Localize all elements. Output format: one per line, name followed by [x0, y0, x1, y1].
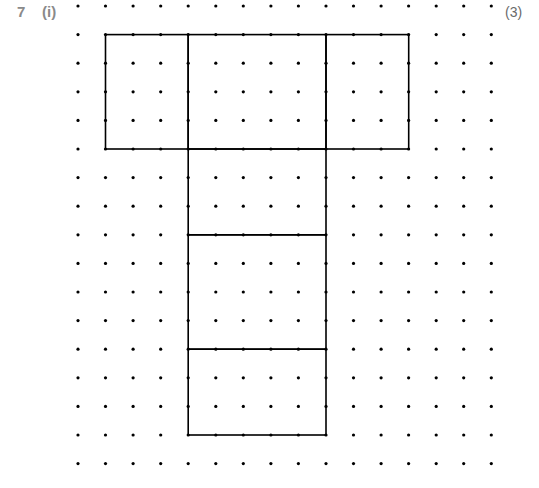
grid-dot: [490, 33, 493, 36]
grid-dot: [435, 433, 438, 436]
grid-dot: [132, 4, 135, 7]
grid-dot: [352, 405, 355, 408]
grid-dot: [159, 462, 162, 465]
grid-dot: [269, 433, 272, 436]
grid-dot: [76, 33, 79, 36]
grid-dot: [297, 405, 300, 408]
grid-dot: [490, 119, 493, 122]
grid-dot: [435, 376, 438, 379]
grid-dot: [324, 262, 327, 265]
grid-dot: [159, 33, 162, 36]
grid-dot: [214, 33, 217, 36]
grid-dot: [490, 376, 493, 379]
grid-dot: [490, 262, 493, 265]
grid-dot: [324, 319, 327, 322]
top-middle-face: [188, 35, 326, 149]
grid-dot: [214, 290, 217, 293]
grid-dot: [132, 147, 135, 150]
grid-dot: [187, 462, 190, 465]
grid-dot: [269, 462, 272, 465]
grid-dot: [187, 147, 190, 150]
grid-dot: [132, 262, 135, 265]
grid-dot: [132, 319, 135, 322]
grid-dot: [104, 176, 107, 179]
grid-dot: [380, 33, 383, 36]
grid-dot: [490, 348, 493, 351]
grid-dot: [132, 176, 135, 179]
grid-dot: [435, 462, 438, 465]
grid-dot: [132, 462, 135, 465]
grid-dot: [462, 348, 465, 351]
grid-dot: [490, 205, 493, 208]
grid-dot: [187, 405, 190, 408]
grid-dot: [269, 205, 272, 208]
grid-dot: [76, 62, 79, 65]
grid-dot: [352, 33, 355, 36]
grid-dot: [407, 462, 410, 465]
grid-dot: [407, 4, 410, 7]
grid-dot: [380, 405, 383, 408]
stem-face-1: [188, 149, 326, 235]
grid-dot: [242, 433, 245, 436]
grid-dot: [462, 205, 465, 208]
grid-dot: [214, 405, 217, 408]
grid-dot: [214, 4, 217, 7]
grid-dot: [462, 90, 465, 93]
grid-dot: [352, 376, 355, 379]
grid-dot: [407, 433, 410, 436]
grid-dot: [435, 290, 438, 293]
grid-dot: [132, 33, 135, 36]
grid-dot: [159, 319, 162, 322]
grid-dot: [269, 290, 272, 293]
grid-dot: [269, 233, 272, 236]
grid-dot: [187, 90, 190, 93]
grid-dot: [242, 62, 245, 65]
grid-dot: [490, 462, 493, 465]
grid-dot: [380, 233, 383, 236]
grid-dot: [490, 176, 493, 179]
grid-dot: [104, 90, 107, 93]
grid-dot: [490, 319, 493, 322]
grid-dot: [214, 233, 217, 236]
grid-dot: [104, 462, 107, 465]
grid-dot: [380, 119, 383, 122]
grid-dot: [462, 290, 465, 293]
grid-dot: [380, 462, 383, 465]
grid-dot: [104, 376, 107, 379]
grid-dot: [76, 376, 79, 379]
grid-dot: [324, 33, 327, 36]
grid-dot: [132, 233, 135, 236]
grid-dot: [76, 233, 79, 236]
grid-dot: [132, 290, 135, 293]
grid-dot: [407, 33, 410, 36]
grid-dot: [269, 176, 272, 179]
grid-dot: [407, 319, 410, 322]
grid-dot: [490, 62, 493, 65]
grid-dot: [214, 176, 217, 179]
grid-dot: [324, 90, 327, 93]
grid-dot: [435, 119, 438, 122]
grid-dot: [269, 376, 272, 379]
grid-dot: [352, 319, 355, 322]
grid-dot: [76, 262, 79, 265]
grid-dot: [242, 147, 245, 150]
grid-dot: [380, 147, 383, 150]
grid-dot: [214, 348, 217, 351]
grid-dot: [159, 205, 162, 208]
grid-dot: [297, 62, 300, 65]
grid-dot: [324, 205, 327, 208]
grid-dot: [297, 205, 300, 208]
grid-dot: [242, 319, 245, 322]
grid-dot: [324, 290, 327, 293]
grid-dot: [214, 262, 217, 265]
grid-dot: [435, 233, 438, 236]
grid-dot: [352, 462, 355, 465]
grid-dot: [269, 90, 272, 93]
grid-dot: [435, 319, 438, 322]
grid-dot: [462, 33, 465, 36]
grid-dot: [242, 119, 245, 122]
grid-dot: [490, 233, 493, 236]
grid-dot: [297, 233, 300, 236]
grid-dot: [104, 348, 107, 351]
grid-dot: [490, 405, 493, 408]
